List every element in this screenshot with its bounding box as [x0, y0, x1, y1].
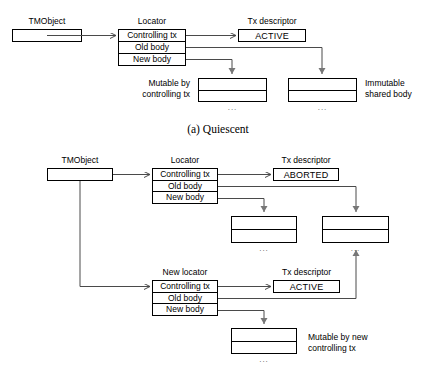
- panel-b-tx-state-aborted: ABORTED: [273, 168, 339, 181]
- panel-b-tmobject-label: TMObject: [47, 155, 113, 166]
- panel-b-new-txdescriptor-label: Tx descriptor: [273, 267, 340, 278]
- panel-b-edge-new-newbody-to-mutable: [218, 311, 264, 325]
- panel-b-locator-table: Controlling tx Old body New body: [152, 168, 218, 204]
- panel-a-tx-state-active: ACTIVE: [238, 29, 306, 42]
- figure-canvas: TMObject Locator Controlling tx Old body…: [0, 0, 436, 372]
- panel-b-orphan-body-row-2: [232, 230, 296, 242]
- connector-lines: [0, 0, 436, 372]
- panel-a-immutable-note-line-2: shared body: [365, 89, 412, 100]
- panel-a-tmobject-box: [12, 29, 82, 42]
- panel-b-new-mutable-body-row-2: [232, 342, 296, 354]
- panel-a-mutable-body-box: [198, 78, 267, 102]
- panel-b-new-tx-state-active: ACTIVE: [273, 280, 340, 293]
- panel-b-new-locator-row-controlling-tx: Controlling tx: [153, 281, 217, 293]
- panel-a-locator-label: Locator: [118, 16, 186, 27]
- panel-b-shared-body-row-1: [323, 217, 388, 230]
- panel-a-edge-oldbody-to-immutable: [186, 48, 322, 75]
- panel-b-new-locator-row-old-body: Old body: [153, 293, 217, 305]
- panel-a-mutable-body-ellipsis: ...: [198, 104, 267, 112]
- figure-caption-a: (a) Quiescent: [148, 123, 288, 135]
- panel-b-edge-tmobject-to-new-locator: [80, 181, 150, 287]
- panel-b-new-mutable-body-ellipsis: ...: [231, 356, 297, 364]
- panel-a-immutable-body-row-1: [289, 79, 356, 91]
- panel-b-shared-body-box: [322, 216, 389, 243]
- panel-a-mutable-body-row-2: [199, 91, 266, 102]
- panel-b-orphan-body-ellipsis: ...: [231, 245, 297, 253]
- panel-a-immutable-body-row-2: [289, 91, 356, 102]
- panel-a-immutable-body-ellipsis: ...: [288, 104, 357, 112]
- panel-b-locator-row-controlling-tx: Controlling tx: [153, 169, 217, 181]
- panel-b-tmobject-box: [47, 168, 113, 181]
- panel-b-note-line-2: controlling tx: [308, 343, 356, 354]
- panel-a-tmobject-label: TMObject: [12, 16, 82, 27]
- panel-b-locator-row-new-body: New body: [153, 192, 217, 203]
- panel-b-orphan-body-box: [231, 216, 297, 243]
- panel-b-new-locator-row-new-body: New body: [153, 304, 217, 315]
- panel-a-mutable-note-line-2: controlling tx: [116, 89, 190, 100]
- panel-a-txdescriptor-label: Tx descriptor: [238, 16, 306, 27]
- panel-b-txdescriptor-label: Tx descriptor: [273, 155, 339, 166]
- panel-a-immutable-note-line-1: Immutable: [365, 78, 405, 89]
- panel-b-new-mutable-body-row-1: [232, 329, 296, 342]
- panel-b-new-locator-table: Controlling tx Old body New body: [152, 280, 218, 316]
- panel-b-new-locator-label: New locator: [152, 267, 218, 278]
- panel-b-new-mutable-body-box: [231, 328, 297, 354]
- panel-b-shared-body-ellipsis: ...: [322, 245, 389, 253]
- panel-b-locator-row-old-body: Old body: [153, 181, 217, 193]
- panel-a-locator-row-old-body: Old body: [119, 42, 185, 54]
- panel-a-edge-newbody-to-mutable: [186, 60, 232, 75]
- panel-a-mutable-note-line-1: Mutable by: [116, 78, 190, 89]
- panel-b-note-line-1: Mutable by new: [308, 332, 368, 343]
- panel-a-mutable-body-row-1: [199, 79, 266, 91]
- panel-b-orphan-body-row-1: [232, 217, 296, 230]
- panel-a-locator-row-controlling-tx: Controlling tx: [119, 30, 185, 42]
- panel-b-shared-body-row-2: [323, 230, 388, 242]
- panel-b-edge-newbody-to-orphan: [218, 199, 264, 213]
- panel-b-edge-oldbody-to-shared: [218, 187, 356, 213]
- panel-b-locator-label: Locator: [152, 155, 218, 166]
- panel-a-locator-row-new-body: New body: [119, 54, 185, 65]
- panel-a-immutable-body-box: [288, 78, 357, 102]
- panel-a-locator-table: Controlling tx Old body New body: [118, 29, 186, 66]
